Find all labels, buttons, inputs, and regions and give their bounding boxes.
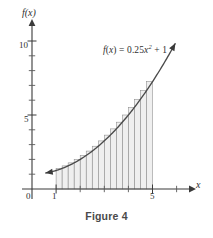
riemann-rectangle [110, 129, 116, 189]
riemann-rectangle [146, 82, 152, 189]
curve-right-arrowhead [169, 43, 175, 51]
x-tick-label-5: 5 [150, 192, 155, 201]
equation-plus-one: + 1 [152, 45, 167, 55]
origin-label: 0 [26, 192, 31, 201]
riemann-rectangle [98, 141, 104, 189]
riemann-rectangle [56, 168, 62, 189]
riemann-rectangle [104, 135, 110, 189]
figure-caption: Figure 4 [0, 210, 213, 222]
riemann-rectangle [74, 159, 80, 189]
x-axis-title: x [196, 180, 200, 190]
riemann-rectangle [80, 155, 86, 189]
riemann-rectangle [128, 107, 134, 189]
riemann-rectangle [140, 91, 146, 189]
figure-4-container: f(x) 10 5 0 1 5 x f(x) = 0.25x2 + 1 Figu… [0, 0, 213, 238]
riemann-rectangles-group [56, 82, 152, 189]
equation-equals: = [117, 45, 127, 55]
riemann-rectangle [86, 151, 92, 189]
riemann-rectangle [68, 163, 74, 189]
y-tick-label-5: 5 [24, 115, 29, 124]
riemann-sum-plot [0, 0, 213, 238]
y-tick-label-10: 10 [19, 41, 28, 50]
riemann-rectangle [122, 115, 128, 189]
riemann-rectangle [92, 146, 98, 189]
x-tick-label-1: 1 [52, 192, 57, 201]
function-equation-label: f(x) = 0.25x2 + 1 [103, 44, 167, 56]
riemann-rectangle [116, 122, 122, 189]
y-axis-title: f(x) [22, 8, 36, 18]
curve-left-arrowhead [45, 169, 53, 175]
y-axis-arrowhead [29, 19, 36, 26]
riemann-rectangle [62, 166, 68, 189]
x-axis-arrowhead [189, 186, 196, 193]
equation-coefficient: 0.25 [127, 45, 144, 55]
riemann-rectangle [134, 99, 140, 189]
